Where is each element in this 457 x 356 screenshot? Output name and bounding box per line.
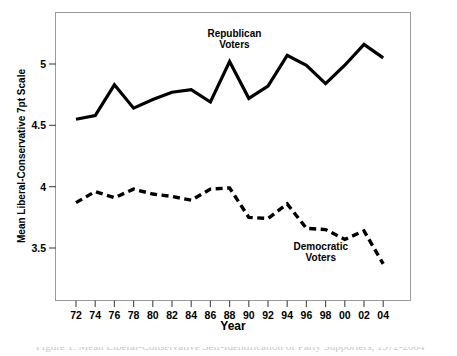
- y-axis-ticks: [49, 64, 56, 248]
- y-axis-title: Mean Liberal-Conservative 7pt Scale: [16, 69, 27, 243]
- x-tick-label: 82: [166, 309, 178, 321]
- x-tick-label: 98: [320, 309, 332, 321]
- x-tick-label: 78: [128, 309, 140, 321]
- x-tick-label: 74: [89, 309, 101, 321]
- line-chart: 3.544.55 7274767880828486889092949698000…: [0, 0, 457, 356]
- x-tick-label: 94: [281, 309, 293, 321]
- figure-caption-strip: Figure 1. Mean Liberal-Conservative Self…: [0, 347, 457, 356]
- y-tick-label: 4: [40, 181, 46, 193]
- x-tick-label: 02: [358, 309, 370, 321]
- figure-container: 3.544.55 7274767880828486889092949698000…: [0, 0, 457, 356]
- x-tick-label: 84: [185, 309, 197, 321]
- plot-area-border: [56, 13, 411, 301]
- series-annotation-republican-line2: Voters: [219, 39, 250, 50]
- x-tick-label: 92: [262, 309, 274, 321]
- y-axis-tick-labels: 3.544.55: [31, 58, 46, 254]
- figure-caption: Figure 1. Mean Liberal-Conservative Self…: [36, 347, 425, 352]
- x-tick-label: 96: [301, 309, 313, 321]
- x-tick-label: 86: [205, 309, 217, 321]
- y-tick-label: 4.5: [31, 119, 46, 131]
- series-annotation-republican-line1: Republican: [207, 28, 261, 39]
- y-tick-label: 3.5: [31, 242, 46, 254]
- y-tick-label: 5: [40, 58, 46, 70]
- x-axis-ticks: [76, 301, 383, 308]
- x-tick-label: 76: [109, 309, 121, 321]
- x-axis-title: Year: [220, 319, 246, 333]
- series-annotation-democratic-line2: Voters: [306, 252, 337, 263]
- series-annotation-democratic-line1: Democratic: [294, 241, 349, 252]
- x-tick-label: 00: [339, 309, 351, 321]
- x-tick-label: 04: [377, 309, 389, 321]
- x-tick-label: 80: [147, 309, 159, 321]
- x-tick-label: 72: [70, 309, 82, 321]
